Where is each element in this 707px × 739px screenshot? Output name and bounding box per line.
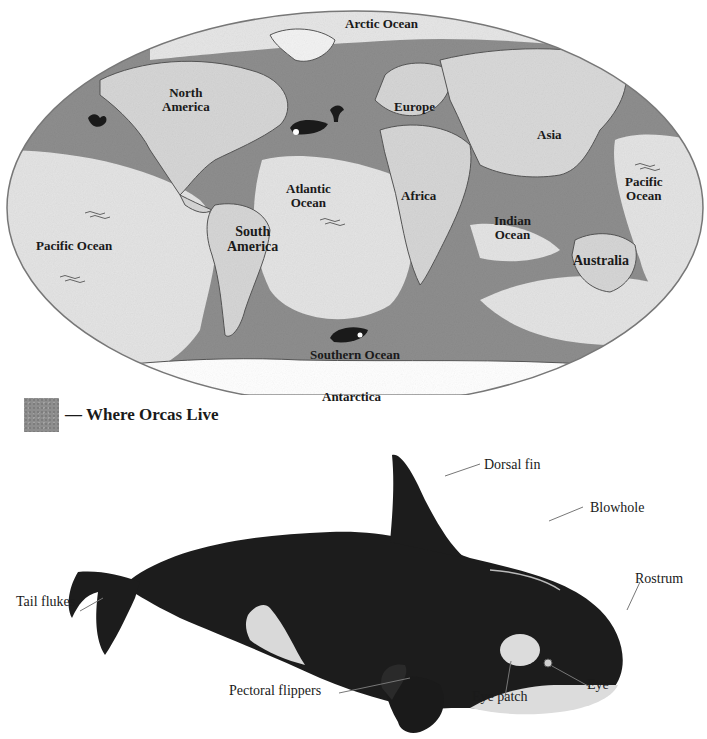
legend-label: — Where Orcas Live [65, 405, 218, 425]
label-australia: Australia [573, 253, 629, 268]
label-europe: Europe [394, 100, 435, 114]
label-antarctica: Antarctica [322, 390, 381, 404]
label-north-america: North America [162, 86, 210, 114]
map-legend: — Where Orcas Live [24, 397, 218, 433]
orca-illustration [0, 440, 707, 739]
orca-eye [544, 659, 552, 667]
label-tail-flukes: Tail flukes [16, 594, 75, 610]
orca-body [130, 532, 623, 711]
label-atlantic-ocean: Atlantic Ocean [286, 182, 331, 210]
label-eye-patch: Eye patch [472, 689, 528, 705]
orca-dorsal-fin [390, 455, 465, 558]
label-blowhole: Blowhole [590, 500, 644, 516]
label-africa: Africa [401, 189, 436, 203]
orca-eye-patch [500, 634, 540, 666]
world-map: Arctic Ocean North America Europe Asia A… [0, 0, 707, 395]
label-indian-ocean: Indian Ocean [494, 214, 531, 242]
orca-habitat-swatch [24, 398, 59, 432]
label-south-america: South America [227, 224, 278, 254]
label-pacific-ocean-east: Pacific Ocean [625, 175, 663, 203]
label-arctic-ocean: Arctic Ocean [345, 17, 418, 31]
world-map-illustration [0, 0, 707, 395]
label-asia: Asia [537, 128, 562, 142]
label-pectoral-flippers: Pectoral flippers [229, 683, 321, 699]
label-dorsal-fin: Dorsal fin [484, 457, 540, 473]
orca-tail-flukes [69, 572, 140, 655]
orca-anatomy-diagram: Dorsal fin Blowhole Rostrum Tail flukes … [0, 440, 707, 739]
label-rostrum: Rostrum [635, 571, 683, 587]
label-eye: Eye [587, 677, 609, 693]
label-southern-ocean: Southern Ocean [310, 348, 400, 362]
label-pacific-ocean-west: Pacific Ocean [36, 239, 112, 253]
